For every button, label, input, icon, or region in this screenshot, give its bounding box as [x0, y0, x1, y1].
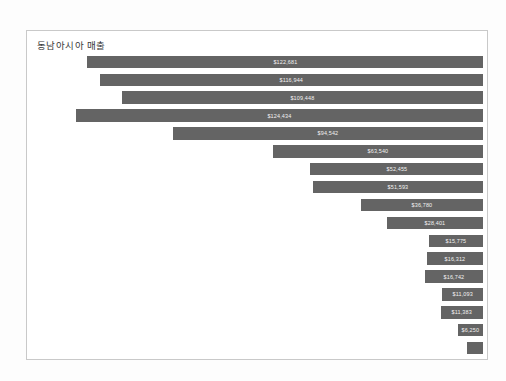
bar-value-label: $15,775 — [446, 238, 467, 244]
bar-row: $51,593 — [27, 181, 483, 194]
bar[interactable]: $94,542 — [173, 127, 483, 140]
bar-row: $109,448 — [27, 91, 483, 104]
bar[interactable]: $124,434 — [76, 109, 483, 122]
bar-value-label: $116,944 — [280, 77, 304, 83]
chart-frame: 동남아시아 매출 $122,681$116,944$109,448$124,43… — [26, 30, 488, 360]
bar-value-label: $124,434 — [268, 112, 292, 118]
bar-row: $52,455 — [27, 163, 483, 176]
bar-value-label: $51,593 — [388, 184, 409, 190]
bar-value-label: $11,383 — [452, 309, 472, 315]
bar[interactable]: $11,383 — [441, 306, 483, 319]
bar-value-label: $6,250 — [462, 327, 480, 333]
bar-chart-plot-area: $122,681$116,944$109,448$124,434$94,542$… — [27, 53, 483, 357]
bar-row: $11,093 — [27, 288, 483, 301]
bar-row: $16,742 — [27, 270, 483, 283]
bar[interactable]: $63,540 — [273, 145, 483, 158]
bar[interactable]: $16,312 — [427, 252, 483, 265]
bar[interactable]: $28,401 — [387, 217, 483, 230]
bar-row: $15,775 — [27, 235, 483, 248]
bar-row: $94,542 — [27, 127, 483, 140]
bar-row: $124,434 — [27, 109, 483, 122]
bar[interactable]: $15,775 — [429, 235, 483, 248]
bar-row — [27, 342, 483, 355]
bar-value-label: $28,401 — [425, 220, 446, 226]
bar-row: $16,312 — [27, 252, 483, 265]
bar-value-label: $109,448 — [291, 95, 315, 101]
bar[interactable]: $122,681 — [87, 56, 483, 69]
bar[interactable]: $51,593 — [313, 181, 483, 194]
bar[interactable]: $16,742 — [425, 270, 483, 283]
bar-value-label: $36,780 — [412, 202, 433, 208]
bar-row: $28,401 — [27, 217, 483, 230]
bar[interactable]: $116,944 — [100, 74, 483, 87]
bar-value-label: $16,742 — [444, 273, 465, 279]
screenshot-stage: 동남아시아 매출 $122,681$116,944$109,448$124,43… — [0, 0, 506, 381]
bar[interactable]: $109,448 — [122, 91, 483, 104]
bar-row: $36,780 — [27, 199, 483, 212]
bar-value-label: $16,312 — [445, 255, 466, 261]
bar-row: $6,250 — [27, 324, 483, 337]
bar[interactable]: $11,093 — [442, 288, 483, 301]
bar[interactable]: $36,780 — [361, 199, 483, 212]
chart-title: 동남아시아 매출 — [37, 38, 106, 52]
bar[interactable] — [467, 342, 483, 355]
bar-value-label: $63,540 — [368, 148, 389, 154]
bar-value-label: $11,093 — [452, 291, 472, 297]
bar-value-label: $122,681 — [273, 59, 297, 65]
bar-row: $63,540 — [27, 145, 483, 158]
bar[interactable]: $52,455 — [310, 163, 483, 176]
bar[interactable]: $6,250 — [458, 324, 483, 337]
bar-row: $116,944 — [27, 74, 483, 87]
bar-value-label: $94,542 — [318, 130, 339, 136]
bar-value-label: $52,455 — [386, 166, 407, 172]
bar-row: $11,383 — [27, 306, 483, 319]
bar-row: $122,681 — [27, 56, 483, 69]
